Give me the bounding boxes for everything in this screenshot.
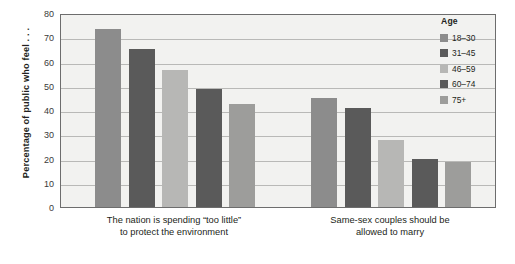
x-group-label-line1: Same-sex couples should be (330, 215, 449, 225)
bar (229, 104, 255, 207)
legend-label: 46–59 (452, 64, 475, 74)
x-group-label-line2: to protect the environment (59, 226, 289, 238)
y-tick-label: 50 (22, 82, 54, 91)
y-tick-label: 70 (22, 34, 54, 43)
x-group-label: The nation is spending “too little”to pr… (59, 214, 289, 239)
legend-swatch-icon (440, 80, 448, 88)
x-group-label-line1: The nation is spending “too little” (107, 215, 241, 225)
bar (345, 108, 371, 207)
bar (378, 140, 404, 207)
bar-chart-figure: Percentage of public who feel . . . 8070… (0, 0, 515, 264)
legend: Age 18–3031–4546–5960–7475+ (440, 16, 512, 108)
y-tick-label: 10 (22, 179, 54, 188)
legend-title: Age (441, 16, 512, 26)
bar (412, 159, 438, 208)
legend-label: 31–45 (452, 48, 475, 58)
x-group-label: Same-sex couples should beallowed to mar… (275, 214, 505, 239)
legend-swatch-icon (440, 34, 448, 42)
legend-label: 75+ (452, 95, 466, 105)
legend-entry: 60–74 (440, 77, 512, 93)
legend-entry: 46–59 (440, 61, 512, 77)
legend-label: 60–74 (452, 79, 475, 89)
y-axis-tick-labels: 80706050403020100 (22, 14, 54, 208)
legend-swatch-icon (440, 49, 448, 57)
legend-label: 18–30 (452, 33, 475, 43)
bar (129, 49, 155, 207)
legend-swatch-icon (440, 65, 448, 73)
y-tick-label: 30 (22, 131, 54, 140)
legend-entries: 18–3031–4546–5960–7475+ (440, 30, 512, 108)
y-tick-label: 60 (22, 58, 54, 67)
legend-entry: 75+ (440, 92, 512, 108)
y-tick-label: 20 (22, 155, 54, 164)
bar (445, 162, 471, 207)
y-tick-label: 40 (22, 107, 54, 116)
legend-entry: 31–45 (440, 46, 512, 62)
bar (95, 29, 121, 207)
y-tick-label: 80 (22, 10, 54, 19)
bar (162, 70, 188, 207)
bar (311, 98, 337, 207)
bar-series-container (61, 15, 495, 207)
legend-swatch-icon (440, 96, 448, 104)
x-group-label-line2: allowed to marry (275, 226, 505, 238)
plot-area (60, 14, 496, 208)
bar (196, 89, 222, 207)
legend-entry: 18–30 (440, 30, 512, 46)
y-tick-label: 0 (22, 204, 54, 213)
